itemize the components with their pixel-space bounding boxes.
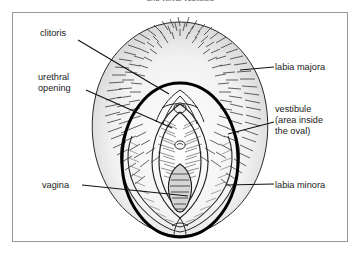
label-labia-majora: labia majora — [275, 62, 325, 73]
label-urethral-opening-line1: urethral — [38, 72, 71, 83]
cut-off-caption: and vulval vestibule — [0, 0, 361, 2]
label-vestibule-line1: vestibule — [275, 104, 323, 115]
urethral-opening — [175, 141, 185, 149]
label-clitoris: clitoris — [40, 28, 66, 39]
figure-stage: and vulval vestibule — [0, 0, 361, 255]
label-labia-majora-text: labia majora — [275, 62, 325, 73]
label-vagina: vagina — [42, 180, 69, 191]
label-vestibule: vestibule (area inside the oval) — [275, 104, 323, 136]
label-labia-minora-text: labia minora — [275, 180, 325, 191]
label-vestibule-line2: (area inside — [275, 115, 323, 126]
label-labia-minora: labia minora — [275, 180, 325, 191]
label-vestibule-line3: the oval) — [275, 126, 323, 137]
label-clitoris-text: clitoris — [40, 28, 66, 39]
label-urethral-opening: urethral opening — [38, 72, 71, 94]
label-urethral-opening-line2: opening — [38, 83, 71, 94]
label-vagina-text: vagina — [42, 180, 69, 191]
